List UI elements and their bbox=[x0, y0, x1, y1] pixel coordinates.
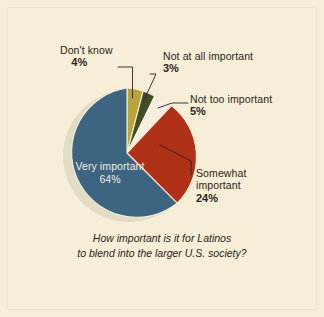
label-very-important: Very important 64% bbox=[58, 160, 162, 185]
label-dont-know: Don't know 4% bbox=[60, 44, 113, 69]
label-very-important-text: Very important bbox=[58, 160, 162, 173]
label-not-too-important-text: Not too important bbox=[190, 93, 272, 105]
label-dont-know-text: Don't know bbox=[60, 44, 113, 56]
label-not-at-all-important: Not at all important 3% bbox=[163, 50, 253, 75]
label-somewhat-important-percent: 24% bbox=[196, 192, 246, 205]
chart-caption: How important is it for Latinos to blend… bbox=[0, 231, 324, 261]
label-dont-know-percent: 4% bbox=[60, 56, 113, 69]
chart-caption-line1: How important is it for Latinos bbox=[0, 231, 324, 246]
label-somewhat-important-text-line2: important bbox=[196, 179, 246, 191]
pie-chart-graphic bbox=[0, 0, 324, 317]
label-not-too-important: Not too important 5% bbox=[190, 93, 272, 118]
label-somewhat-important: Somewhat important 24% bbox=[196, 167, 246, 205]
label-not-too-important-percent: 5% bbox=[190, 105, 272, 118]
label-very-important-percent: 64% bbox=[58, 173, 162, 186]
label-not-at-all-important-percent: 3% bbox=[163, 62, 253, 75]
chart-caption-line2: to blend into the larger U.S. society? bbox=[0, 246, 324, 261]
pie-chart-figure: Don't know 4% Not at all important 3% No… bbox=[0, 0, 324, 317]
label-somewhat-important-text-line1: Somewhat bbox=[196, 167, 246, 179]
label-not-at-all-important-text: Not at all important bbox=[163, 50, 253, 62]
